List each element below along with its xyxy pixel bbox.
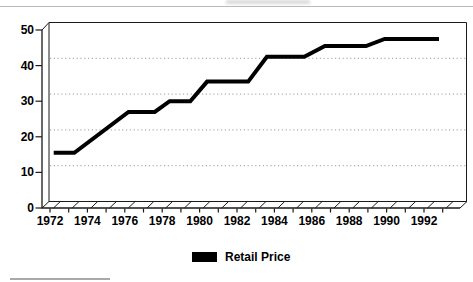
- y-tick-label-30: 30: [6, 94, 34, 108]
- legend-label: Retail Price: [225, 250, 290, 264]
- legend-swatch-retail-price: [192, 252, 217, 262]
- axis-ticks: [36, 30, 443, 213]
- y-tick-label-10: 10: [6, 165, 34, 179]
- x-tick-label-1990: 1990: [373, 214, 400, 228]
- x-tick-label-1980: 1980: [186, 214, 213, 228]
- y-tick-label-0: 0: [6, 201, 34, 215]
- retail-price-line: [54, 39, 439, 153]
- legend: Retail Price: [192, 250, 290, 264]
- cropped-rule-bottom-left: [10, 278, 110, 280]
- retail-price-chart: [0, 0, 473, 282]
- x-tick-label-1974: 1974: [74, 214, 101, 228]
- x-tick-label-1984: 1984: [261, 214, 288, 228]
- y-tick-label-20: 20: [6, 130, 34, 144]
- floor-hatch-band: [42, 202, 467, 209]
- x-tick-label-1986: 1986: [298, 214, 325, 228]
- x-tick-label-1976: 1976: [111, 214, 138, 228]
- y-tick-label-40: 40: [6, 59, 34, 73]
- x-tick-label-1982: 1982: [224, 214, 251, 228]
- x-tick-label-1972: 1972: [37, 214, 64, 228]
- x-tick-label-1992: 1992: [411, 214, 438, 228]
- grid-lines: [50, 58, 466, 165]
- axes-frame: [42, 23, 460, 209]
- chart-canvas: 50 40 30 20 10 0 1972 1974 1976 1978 198…: [0, 0, 473, 282]
- y-tick-label-50: 50: [6, 23, 34, 37]
- x-tick-label-1988: 1988: [336, 214, 363, 228]
- x-tick-label-1978: 1978: [149, 214, 176, 228]
- plot-back-wall: [49, 23, 467, 202]
